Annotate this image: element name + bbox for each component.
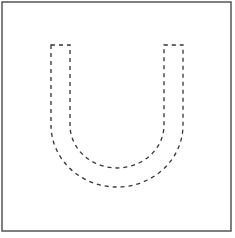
figure-canvas (0, 0, 235, 238)
frame-border (2, 2, 231, 231)
